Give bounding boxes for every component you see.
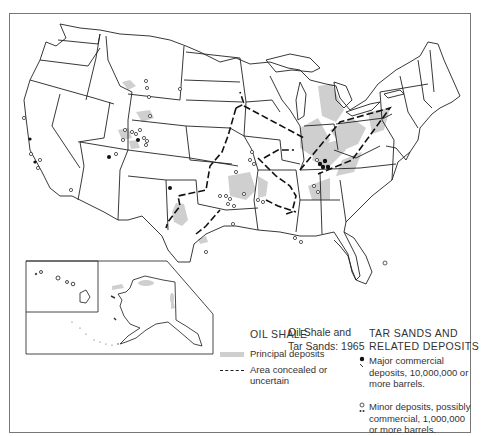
alaska-hawaii-inset xyxy=(26,261,213,354)
legend-label-line3: more barrels. xyxy=(369,378,481,390)
gray-fill-swatch-icon xyxy=(220,352,244,357)
legend-item-concealed-area: Area concealed or uncertain xyxy=(220,364,327,376)
aleutian-islands xyxy=(71,321,118,345)
legend-label-line1: Major commercial xyxy=(369,355,481,367)
legend-heading-line1: TAR SANDS AND xyxy=(369,327,479,340)
legend-label-line2: commercial, 1,000,000 xyxy=(369,413,481,425)
legend-item-principal-deposits: Principal deposits xyxy=(220,348,324,360)
open-circle-icon xyxy=(357,401,367,419)
legend-oil-shale-heading: OIL SHALE xyxy=(250,328,307,341)
legend-label: Area concealed or xyxy=(250,364,327,375)
legend-label-line3: or more barrels. xyxy=(369,424,481,436)
principal-deposits xyxy=(112,80,390,309)
filled-dot-icon xyxy=(357,355,367,373)
legend-label: Principal deposits xyxy=(250,348,324,359)
hawaii-islands xyxy=(35,271,90,304)
state-boundaries xyxy=(24,24,460,284)
dashed-line-swatch-icon xyxy=(220,370,244,371)
legend-tar-sands-heading: TAR SANDS AND RELATED DEPOSITS xyxy=(369,327,479,353)
legend-label-line2: uncertain xyxy=(250,375,289,387)
legend-label-line2: deposits, 10,000,000 or xyxy=(369,367,481,379)
alaska-deposits xyxy=(138,280,174,303)
legend-heading-line2: RELATED DEPOSITS xyxy=(369,340,479,353)
legend-label-line1: Minor deposits, possibly xyxy=(369,401,481,413)
